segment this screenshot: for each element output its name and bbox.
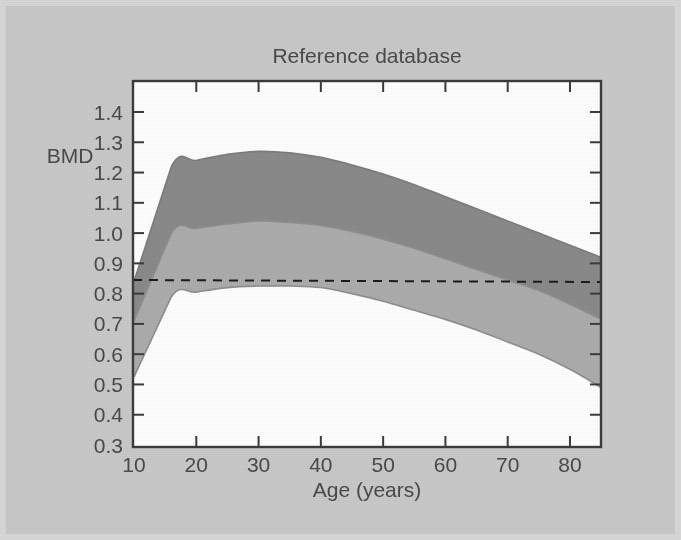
y-tick-label: 1.2 (94, 161, 123, 184)
y-tick-label: 1.4 (94, 101, 124, 124)
x-axis-tick-labels: 1020304050607080 (122, 453, 581, 476)
x-tick-label: 30 (247, 453, 270, 476)
y-tick-label: 0.3 (94, 434, 123, 457)
y-tick-label: 1.0 (94, 222, 123, 245)
y-tick-label: 0.4 (94, 403, 124, 426)
y-tick-label: 0.8 (94, 282, 123, 305)
y-tick-label: 0.9 (94, 252, 123, 275)
y-axis-title: BMD (47, 144, 94, 167)
x-tick-label: 70 (496, 453, 519, 476)
x-tick-label: 50 (371, 453, 394, 476)
bmd-reference-chart: 0.30.40.50.60.70.80.91.01.11.21.31.4 102… (0, 0, 681, 540)
figure-card: 0.30.40.50.60.70.80.91.01.11.21.31.4 102… (0, 0, 681, 540)
x-tick-label: 10 (122, 453, 145, 476)
x-tick-label: 20 (185, 453, 208, 476)
x-tick-label: 80 (558, 453, 581, 476)
chart-title: Reference database (272, 44, 461, 67)
x-tick-label: 40 (309, 453, 332, 476)
y-tick-label: 1.1 (94, 191, 123, 214)
x-axis-title: Age (years) (313, 478, 422, 501)
y-axis-tick-labels: 0.30.40.50.60.70.80.91.01.11.21.31.4 (94, 101, 124, 457)
y-tick-label: 0.6 (94, 343, 123, 366)
y-tick-label: 0.7 (94, 312, 123, 335)
x-tick-label: 60 (434, 453, 457, 476)
y-tick-label: 1.3 (94, 131, 123, 154)
y-tick-label: 0.5 (94, 373, 123, 396)
